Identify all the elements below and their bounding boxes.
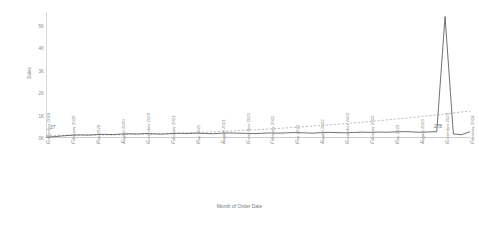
- plot-area: 37 278: [46, 12, 470, 138]
- y-tick-label-0K: 0K: [38, 136, 44, 141]
- x-tick-label: November 2023: [445, 113, 450, 144]
- x-tick-label: February 2023: [370, 115, 375, 144]
- x-tick-label: May 2023: [395, 125, 400, 144]
- y-tick-label-2K: 2K: [38, 91, 44, 96]
- x-tick-label: November 2019: [46, 113, 51, 144]
- series-canvas: [46, 12, 470, 138]
- y-tick-label-5K: 5K: [38, 23, 44, 28]
- x-axis-tick-labels: November 2019February 2020May 2020August…: [46, 140, 470, 188]
- y-tick-label-1K: 1K: [38, 113, 44, 118]
- x-tick-label: May 2022: [295, 125, 300, 144]
- y-tick-label-4K: 4K: [38, 46, 44, 51]
- sales-line-path: [46, 17, 470, 138]
- x-tick-label: November 2022: [345, 113, 350, 144]
- x-tick-label: November 2020: [146, 113, 151, 144]
- x-tick-label: February 2021: [171, 115, 176, 144]
- x-tick-label: November 2021: [246, 113, 251, 144]
- x-tick-label: February 2024: [470, 115, 475, 144]
- last-point-label: 278: [434, 124, 442, 129]
- y-tick-label-3K: 3K: [38, 68, 44, 73]
- x-axis-title: Month of Order Date: [0, 203, 479, 209]
- x-tick-label: August 2022: [320, 119, 325, 144]
- x-tick-label: August 2021: [221, 119, 226, 144]
- x-tick-label: August 2020: [121, 119, 126, 144]
- x-tick-label: August 2023: [420, 119, 425, 144]
- x-tick-label: February 2022: [270, 115, 275, 144]
- x-tick-label: May 2021: [196, 125, 201, 144]
- sales-line-chart: Sales 5K4K3K2K1K0K 37 278 November 2019F…: [0, 0, 479, 240]
- x-tick-label: February 2020: [71, 115, 76, 144]
- x-tick-label: May 2020: [96, 125, 101, 144]
